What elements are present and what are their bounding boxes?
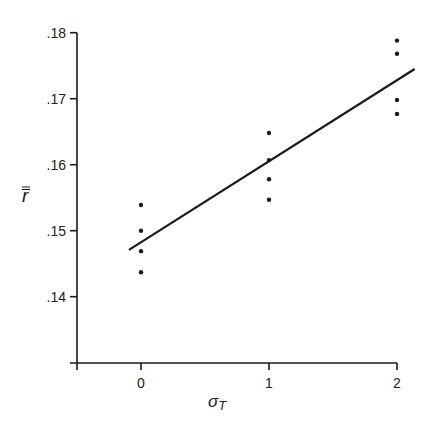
x-tick-label: 2 <box>393 375 401 391</box>
y-tick-label: .18 <box>47 25 67 41</box>
x-axis-label: σT <box>208 392 227 413</box>
y-axis-label-text: r <box>22 185 29 206</box>
y-tick-label: .17 <box>47 91 67 107</box>
data-point <box>395 38 399 42</box>
data-point <box>139 203 143 207</box>
y-tick-label: .14 <box>47 289 67 305</box>
data-point <box>267 177 271 181</box>
x-tick-label: 0 <box>137 375 145 391</box>
y-tick-label: .15 <box>47 223 67 239</box>
data-point <box>267 158 271 162</box>
data-point <box>395 98 399 102</box>
data-point <box>395 112 399 116</box>
data-point <box>139 270 143 274</box>
data-points <box>139 38 399 274</box>
data-point <box>139 249 143 253</box>
data-point <box>267 197 271 201</box>
axes <box>70 33 397 370</box>
fitted-line <box>129 69 415 250</box>
data-point <box>267 131 271 135</box>
x-axis-label-sub: T <box>218 398 227 413</box>
y-axis-ticks: .14.15.16.17.18 <box>47 25 77 305</box>
x-tick-label: 1 <box>265 375 273 391</box>
regression-line <box>129 69 415 250</box>
y-tick-label: .16 <box>47 157 67 173</box>
y-axis-label: r <box>22 185 30 206</box>
x-axis-ticks: 012 <box>137 363 401 391</box>
data-point <box>139 229 143 233</box>
scatter-chart: .14.15.16.17.18 012 r σT <box>0 0 437 425</box>
data-point <box>395 52 399 56</box>
